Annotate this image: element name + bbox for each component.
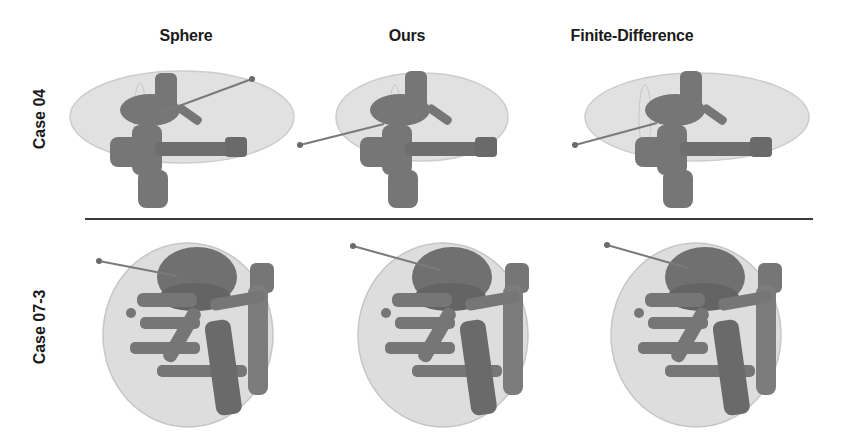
row-divider bbox=[85, 218, 813, 220]
panel-case073-ours bbox=[340, 225, 550, 430]
column-title-ours: Ours bbox=[307, 27, 507, 45]
panel-case04-finite-difference bbox=[565, 65, 825, 215]
render-case04-finite-difference bbox=[565, 65, 825, 215]
panel-case04-ours bbox=[290, 65, 530, 215]
render-case04-ours bbox=[290, 65, 530, 215]
render-case073-ours bbox=[340, 225, 550, 430]
render-case073-sphere bbox=[85, 225, 295, 430]
column-title-finite-difference: Finite-Difference bbox=[532, 27, 732, 45]
render-case04-sphere bbox=[60, 65, 300, 215]
row-label-case-07-3: Case 07-3 bbox=[31, 277, 49, 377]
panel-case073-sphere bbox=[85, 225, 295, 430]
row-label-case-04: Case 04 bbox=[31, 69, 49, 169]
column-title-sphere: Sphere bbox=[86, 27, 286, 45]
panel-case04-sphere bbox=[60, 65, 300, 215]
panel-case073-finite-difference bbox=[593, 225, 803, 430]
render-case073-finite-difference bbox=[593, 225, 803, 430]
